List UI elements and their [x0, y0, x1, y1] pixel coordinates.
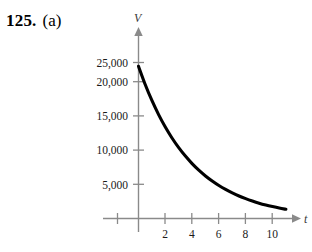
- axes: [103, 27, 301, 232]
- y-tick-label-5000: 5,000: [102, 179, 128, 192]
- x-tick-label-6: 6: [216, 228, 222, 240]
- exponential-decay-curve: [139, 66, 286, 209]
- y-axis-arrowhead: [134, 27, 142, 36]
- x-tick-label-4: 4: [189, 228, 195, 240]
- y-axis-tick-labels: 5,000 10,000 15,000 20,000 25,000: [96, 57, 128, 192]
- x-tick-label-10: 10: [266, 228, 278, 240]
- x-axis-label: t: [304, 212, 308, 226]
- x-tick-label-8: 8: [243, 228, 249, 240]
- figure-page: 125.(a) 5,000 10,000 15,000 20,000 25,00…: [0, 0, 312, 252]
- y-tick-label-20000: 20,000: [96, 76, 128, 89]
- y-tick-label-15000: 15,000: [96, 110, 128, 123]
- decay-chart: 5,000 10,000 15,000 20,000 25,000 2 4 6 …: [0, 0, 312, 252]
- y-tick-label-10000: 10,000: [96, 144, 128, 157]
- x-axis-tick-labels: 2 4 6 8 10: [162, 228, 278, 240]
- y-axis-label: V: [134, 11, 143, 25]
- x-tick-label-2: 2: [162, 228, 168, 240]
- y-tick-label-25000: 25,000: [96, 57, 128, 70]
- x-axis-arrowhead: [292, 214, 301, 222]
